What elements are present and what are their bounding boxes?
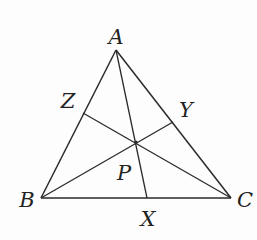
vertex-labels: A B C X Y Z P [18, 25, 253, 231]
cevians [41, 50, 231, 198]
point-p-marker [134, 140, 137, 143]
label-b: B [18, 188, 34, 212]
edge-ca [116, 50, 231, 198]
label-a: A [106, 25, 123, 49]
label-z: Z [60, 89, 76, 113]
cevian-cz [83, 113, 231, 198]
triangle-edges [41, 50, 231, 198]
label-c: C [237, 188, 253, 212]
diagram-canvas: A B C X Y Z P [0, 0, 257, 240]
label-y: Y [179, 98, 195, 122]
label-x: X [139, 207, 157, 231]
triangle-diagram: A B C X Y Z P [0, 0, 257, 240]
label-p: P [116, 161, 132, 185]
